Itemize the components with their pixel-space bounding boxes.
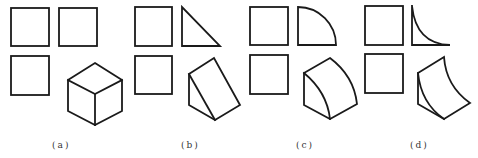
panel-d-label: (d)	[410, 140, 429, 150]
panel-a-front-view-square	[11, 8, 49, 46]
panel-c-side-view-quarter-circle	[298, 7, 336, 45]
figure-canvas: (a) (b) (c) (d)	[0, 0, 478, 158]
panel-b: (b)	[135, 7, 240, 150]
panel-a: (a)	[11, 8, 122, 150]
panel-a-top-view-square	[11, 56, 49, 95]
panel-b-side-view-triangle	[182, 7, 220, 46]
panel-c-top-view-square	[250, 55, 288, 94]
panel-b-label: (b)	[181, 140, 200, 150]
panel-b-wedge-solid	[189, 58, 240, 120]
panel-b-top-view-square	[135, 56, 172, 94]
panel-d-concave-ramp-solid	[418, 57, 470, 119]
panel-c-front-view-square	[250, 7, 288, 45]
panel-c: (c)	[250, 7, 357, 150]
panel-d-front-view-square	[365, 6, 403, 45]
panel-a-side-view-square	[59, 8, 97, 46]
panel-a-label: (a)	[52, 140, 70, 150]
panel-d: (d)	[365, 6, 470, 150]
panel-a-cube-solid	[68, 63, 122, 125]
panel-d-top-view-square	[365, 54, 403, 93]
panel-b-front-view-square	[135, 7, 172, 46]
panel-c-label: (c)	[296, 140, 314, 150]
panel-d-side-view-concave-fillet	[412, 6, 450, 45]
panel-c-quarter-cylinder-solid	[304, 58, 357, 119]
